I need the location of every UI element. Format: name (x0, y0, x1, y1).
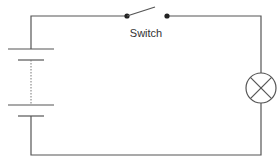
switch-label: Switch (130, 27, 162, 39)
switch-icon (124, 7, 169, 19)
switch-lever (127, 7, 155, 16)
lamp-icon (246, 73, 276, 103)
circuit-diagram: Switch (0, 0, 279, 162)
battery-icon (8, 49, 54, 116)
wire-bottom (31, 103, 261, 155)
wire-top-left (31, 16, 127, 49)
wire-top-right (167, 16, 261, 73)
switch-contact-right (164, 13, 169, 18)
